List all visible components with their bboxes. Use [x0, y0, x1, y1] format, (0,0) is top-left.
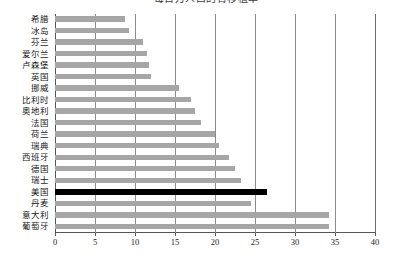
y-axis-label: 意大利 — [22, 210, 49, 222]
bar — [55, 108, 195, 113]
bar-row — [55, 14, 375, 26]
y-axis-label: 荷兰 — [31, 129, 49, 141]
bar — [55, 51, 147, 56]
bar — [55, 201, 251, 206]
bar-rows — [55, 14, 375, 233]
bar — [55, 224, 329, 229]
x-tickmark-30 — [295, 233, 296, 236]
bar-row — [55, 49, 375, 61]
bar-row — [55, 95, 375, 107]
bar — [55, 16, 125, 21]
plot-area — [55, 14, 375, 233]
x-tick-label: 20 — [211, 237, 220, 247]
bar — [55, 97, 191, 102]
y-axis-label: 芬兰 — [31, 37, 49, 49]
bar — [55, 166, 235, 171]
y-axis-label: 爱尔兰 — [22, 49, 49, 61]
bar — [55, 131, 215, 136]
y-axis-label: 瑞典 — [31, 141, 49, 153]
y-axis-label: 美国 — [31, 187, 49, 199]
bar-chart: 每百万人口的肾移植率 希腊冰岛芬兰爱尔兰卢森堡英国挪威比利时奥地利法国荷兰瑞典西… — [0, 0, 412, 257]
bar-row — [55, 221, 375, 233]
x-tickmark-0 — [55, 233, 56, 236]
bar — [55, 62, 149, 67]
bar — [55, 212, 329, 217]
bar-highlighted — [55, 189, 267, 195]
bar — [55, 74, 151, 79]
y-axis-label: 葡萄牙 — [22, 221, 49, 233]
x-tickmark-35 — [335, 233, 336, 236]
x-tick-label: 35 — [331, 237, 340, 247]
x-tickmark-25 — [255, 233, 256, 236]
y-axis-label: 挪威 — [31, 83, 49, 95]
y-axis-label: 西班牙 — [22, 152, 49, 164]
y-axis-label: 英国 — [31, 72, 49, 84]
y-axis-label: 瑞士 — [31, 175, 49, 187]
x-tickmark-40 — [375, 233, 376, 236]
y-axis-label: 德国 — [31, 164, 49, 176]
bar-row — [55, 164, 375, 176]
x-tick-label: 10 — [131, 237, 140, 247]
gridline-40 — [375, 14, 376, 233]
bar-row — [55, 198, 375, 210]
bar-row — [55, 175, 375, 187]
bar — [55, 28, 129, 33]
x-tick-label: 0 — [53, 237, 57, 247]
chart-title: 每百万人口的肾移植率 — [0, 0, 412, 4]
bar — [55, 143, 219, 148]
bar-row — [55, 118, 375, 130]
x-tickmark-5 — [95, 233, 96, 236]
y-axis-label: 奥地利 — [22, 106, 49, 118]
bar-row — [55, 152, 375, 164]
x-tick-label: 40 — [371, 237, 380, 247]
bar — [55, 155, 229, 160]
bar — [55, 85, 179, 90]
bar-row — [55, 187, 375, 199]
x-tick-label: 30 — [291, 237, 300, 247]
x-tick-label: 15 — [171, 237, 180, 247]
y-axis-label: 希腊 — [31, 14, 49, 26]
bar-row — [55, 26, 375, 38]
y-axis-label: 卢森堡 — [22, 60, 49, 72]
bar — [55, 178, 241, 183]
x-tick-label: 5 — [93, 237, 97, 247]
y-axis-label: 比利时 — [22, 95, 49, 107]
bar-row — [55, 60, 375, 72]
bar-row — [55, 141, 375, 153]
bar-row — [55, 72, 375, 84]
bar-row — [55, 210, 375, 222]
y-axis-label: 冰岛 — [31, 26, 49, 38]
bar-row — [55, 129, 375, 141]
x-tick-label: 25 — [251, 237, 260, 247]
x-tickmark-10 — [135, 233, 136, 236]
y-axis-category-labels: 希腊冰岛芬兰爱尔兰卢森堡英国挪威比利时奥地利法国荷兰瑞典西班牙德国瑞士美国丹麦意… — [0, 14, 52, 233]
y-axis-label: 丹麦 — [31, 198, 49, 210]
bar — [55, 120, 201, 125]
x-axis-ticks: 0510152025303540 — [55, 233, 375, 253]
bar-row — [55, 83, 375, 95]
y-axis-label: 法国 — [31, 118, 49, 130]
x-tickmark-15 — [175, 233, 176, 236]
x-tickmark-20 — [215, 233, 216, 236]
bar-row — [55, 106, 375, 118]
bar — [55, 39, 143, 44]
bar-row — [55, 37, 375, 49]
